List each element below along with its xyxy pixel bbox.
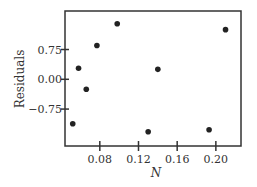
data-point <box>70 121 76 127</box>
scatter-chart: 0.080.120.160.20 0.750.00−0.75 N Residua… <box>0 0 257 187</box>
x-tick-label: 0.16 <box>165 153 190 166</box>
x-tick-label: 0.12 <box>126 153 151 166</box>
plot-frame <box>65 11 241 146</box>
data-point <box>145 129 151 135</box>
y-axis-title: Residuals <box>13 50 27 109</box>
data-point <box>223 27 229 33</box>
data-point <box>206 127 212 133</box>
data-point <box>76 65 82 71</box>
y-tick-label: −0.75 <box>28 103 62 116</box>
x-tick-label: 0.20 <box>204 153 229 166</box>
y-axis-ticks: 0.750.00−0.75 <box>28 44 69 117</box>
data-point <box>155 67 161 73</box>
x-tick-label: 0.08 <box>88 153 113 166</box>
x-axis-title: N <box>150 166 162 180</box>
y-tick-label: 0.00 <box>38 73 63 86</box>
data-point <box>83 86 89 92</box>
data-points <box>70 21 228 135</box>
data-point <box>114 21 120 27</box>
y-tick-label: 0.75 <box>38 44 63 57</box>
data-point <box>94 43 100 49</box>
x-axis-ticks: 0.080.120.160.20 <box>88 141 229 166</box>
